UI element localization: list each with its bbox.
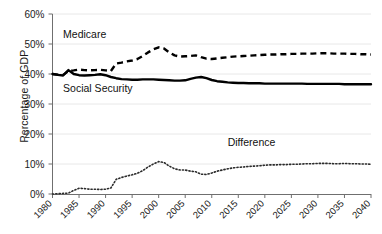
- y-tick-label: 0%: [30, 189, 45, 200]
- x-tick-label: 1985: [58, 198, 81, 221]
- chart-container: Percentage of GDP 0%10%20%30%40%50%60% 1…: [0, 0, 382, 234]
- x-tick-label: 2040: [350, 198, 373, 221]
- x-axis-tick-labels: 1980198519901995200020052010201520202025…: [31, 198, 372, 221]
- x-tick-label: 2010: [190, 198, 213, 221]
- x-tick-label: 2020: [244, 198, 267, 221]
- data-series-group: [53, 47, 372, 194]
- x-tick-label: 2000: [137, 198, 160, 221]
- y-axis-title: Percentage of GDP: [18, 26, 30, 166]
- x-tick-label: 1995: [111, 198, 134, 221]
- series-annotations-group: MedicareSocial SecurityDifference: [63, 28, 275, 148]
- y-axis-tick-marks: [49, 14, 53, 194]
- difference-label: Difference: [228, 136, 276, 148]
- x-tick-label: 2030: [297, 198, 320, 221]
- x-tick-label: 2005: [164, 198, 187, 221]
- y-tick-label: 60%: [24, 9, 44, 20]
- line-chart-plot: 0%10%20%30%40%50%60% 1980198519901995200…: [0, 0, 382, 234]
- x-tick-label: 1980: [31, 198, 54, 221]
- series-line-difference: [53, 162, 372, 194]
- x-tick-label: 2035: [323, 198, 346, 221]
- series-line-medicare: [53, 47, 372, 75]
- social-security-label: Social Security: [63, 82, 133, 94]
- x-tick-label: 1990: [84, 198, 107, 221]
- medicare-label: Medicare: [63, 28, 106, 40]
- x-tick-label: 2015: [217, 198, 240, 221]
- x-tick-label: 2025: [270, 198, 293, 221]
